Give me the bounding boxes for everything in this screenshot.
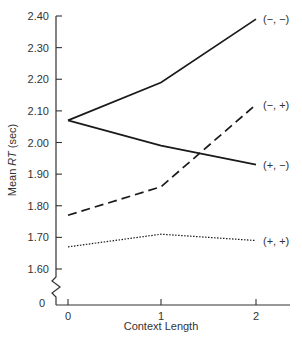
- y-tick-label: 1.70: [28, 231, 49, 243]
- x-tick-label: 2: [253, 310, 259, 322]
- series-line: [68, 19, 256, 120]
- y-tick-label: 2.30: [28, 42, 49, 54]
- series-label: (−, +): [263, 99, 289, 111]
- x-tick-label: 0: [65, 310, 71, 322]
- y-tick-label: 1.90: [28, 168, 49, 180]
- series-line: [68, 234, 256, 247]
- series-label: (−, −): [263, 13, 289, 25]
- y-zero-label: 0: [39, 297, 45, 309]
- series-label: (+, −): [263, 159, 289, 171]
- y-tick-label: 2.00: [28, 137, 49, 149]
- series-line: [68, 105, 256, 216]
- y-tick-label: 2.40: [28, 10, 49, 22]
- series-label: (+, +): [263, 235, 289, 247]
- y-tick-label: 2.20: [28, 73, 49, 85]
- y-tick-label: 1.60: [28, 263, 49, 275]
- x-axis-label: Context Length: [124, 320, 199, 332]
- series-line: [68, 120, 256, 164]
- line-chart: 1.601.701.801.902.002.102.202.302.400 01…: [0, 0, 302, 341]
- series-lines: [68, 19, 256, 247]
- y-axis-label: Mean RT (sec): [6, 124, 18, 197]
- x-axis: 012: [56, 299, 290, 322]
- series-labels: (−, −)(−, +)(+, −)(+, +): [263, 13, 289, 246]
- y-axis: 1.601.701.801.902.002.102.202.302.400: [28, 10, 62, 309]
- y-tick-label: 2.10: [28, 105, 49, 117]
- y-axis-line: [52, 16, 60, 305]
- y-tick-label: 1.80: [28, 200, 49, 212]
